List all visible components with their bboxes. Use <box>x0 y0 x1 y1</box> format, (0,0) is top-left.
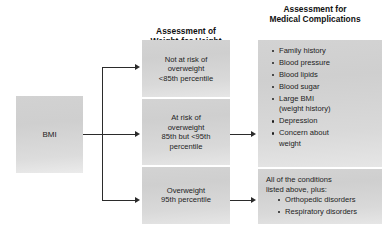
weight-category-box-overweight: Overweight 95th percentile <box>142 167 230 224</box>
list-item-line-1: Concern about <box>279 128 329 137</box>
text-line: Not at risk of <box>142 54 230 64</box>
complications-secondary-list: Orthopedic disorders Respiratory disorde… <box>278 195 378 219</box>
list-item: Concern about weight <box>272 128 378 149</box>
weight-category-box-not-at-risk: Not at risk of overweight <85th percenti… <box>142 40 230 97</box>
list-item: Blood sugar <box>272 82 378 92</box>
text-line: <85th percentile <box>142 73 230 83</box>
arrow-head-not-at-risk <box>135 64 140 70</box>
heading-line-1: Assessment of <box>136 26 236 36</box>
list-item: Orthopedic disorders <box>278 195 378 205</box>
connector-bmi-stem <box>83 134 103 135</box>
connector-branch-not-at-risk <box>102 67 136 68</box>
arrow-head-at-risk <box>135 131 140 137</box>
text-line: 85th but <95th <box>142 132 230 142</box>
complications-secondary-lead: All of the conditions listed above, plus… <box>266 175 378 195</box>
connector-branch-at-risk <box>102 134 136 135</box>
text-line: percentile <box>142 142 230 152</box>
arrow-head-overweight <box>135 197 140 203</box>
complications-primary-box: Family history Blood pressure Blood lipi… <box>258 40 382 167</box>
list-item: Large BMI (weight history) <box>272 94 378 115</box>
text-line: 95th percentile <box>142 196 230 206</box>
lead-line-2: listed above, plus: <box>266 185 378 195</box>
list-item: Blood pressure <box>272 58 378 68</box>
column-heading-medical-complications: Assessment for Medical Complications <box>248 4 382 25</box>
connector-at-risk-to-complications <box>230 134 253 135</box>
weight-category-text: Not at risk of overweight <85th percenti… <box>142 54 230 83</box>
heading-line-1: Assessment for <box>248 4 382 14</box>
list-item-line-1: Large BMI <box>279 94 314 103</box>
weight-category-box-at-risk: At risk of overweight 85th but <95th per… <box>142 99 230 165</box>
text-line: Overweight <box>142 186 230 196</box>
complications-secondary-box: All of the conditions listed above, plus… <box>258 169 382 224</box>
heading-line-2: Medical Complications <box>248 14 382 24</box>
bmi-box: BMI <box>16 96 83 173</box>
weight-category-text: Overweight 95th percentile <box>142 186 230 205</box>
list-item-line-2: weight <box>279 139 301 148</box>
text-line: overweight <box>142 64 230 74</box>
figure-canvas: Assessment of Weight-for-Height Assessme… <box>0 0 390 242</box>
arrow-head-complications-primary <box>251 131 256 137</box>
arrow-head-complications-secondary <box>251 197 256 203</box>
bmi-label: BMI <box>16 130 83 140</box>
lead-line-1: All of the conditions <box>266 175 378 185</box>
list-item: Blood lipids <box>272 70 378 80</box>
complications-primary-list: Family history Blood pressure Blood lipi… <box>272 46 378 151</box>
list-item: Respiratory disorders <box>278 207 378 217</box>
list-item-line-2: (weight history) <box>279 104 330 113</box>
list-item: Depression <box>272 116 378 126</box>
list-item: Family history <box>272 46 378 56</box>
text-line: At risk of <box>142 113 230 123</box>
connector-branch-overweight <box>102 200 136 201</box>
weight-category-text: At risk of overweight 85th but <95th per… <box>142 113 230 151</box>
connector-overweight-to-complications <box>230 200 253 201</box>
text-line: overweight <box>142 122 230 132</box>
